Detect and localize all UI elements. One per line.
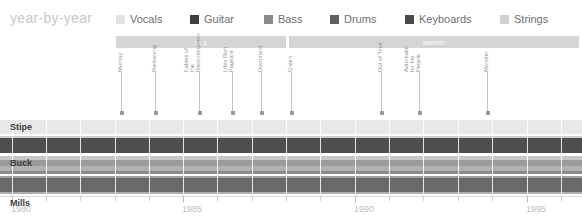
chart-header: year-by-year VocalsGuitarBassDrumsKeyboa… (0, 10, 582, 32)
legend-item-vocals[interactable]: Vocals (116, 11, 162, 27)
album-marker-line (261, 72, 262, 112)
axis-tick (355, 196, 356, 203)
album-marker-label: Document (257, 46, 263, 72)
album-marker-label: Out of Time (377, 42, 383, 72)
legend-swatch-icon (405, 15, 414, 24)
album-marker-dot-icon (198, 111, 202, 115)
gridline (252, 118, 253, 196)
legend-item-label: Vocals (130, 14, 162, 25)
legend-swatch-icon (264, 15, 273, 24)
gridline (80, 118, 81, 196)
axis-tick (217, 196, 218, 201)
album-marker-line (155, 72, 156, 112)
album-marker-line (121, 72, 122, 112)
album-marker-line (487, 72, 488, 112)
legend-item-label: Guitar (204, 14, 234, 25)
legend-item-drums[interactable]: Drums (330, 11, 376, 27)
legend-item-guitar[interactable]: Guitar (190, 11, 234, 27)
legend-item-bass[interactable]: Bass (264, 11, 302, 27)
album-marker-label: Automatic for the People (403, 44, 421, 72)
album-marker-line (199, 72, 200, 112)
album-marker-dot-icon (154, 111, 158, 115)
legend-item-label: Strings (514, 14, 548, 25)
axis-tick (46, 196, 47, 201)
member-name-label: Stipe (10, 122, 32, 132)
gridline (458, 118, 459, 196)
album-marker-dot-icon (231, 111, 235, 115)
album-marker-line (291, 72, 292, 112)
record-label-warner[interactable]: warner (289, 36, 579, 48)
axis-tick-label: 1995 (526, 204, 546, 214)
gridline (320, 118, 321, 196)
gridline (115, 118, 116, 196)
legend-item-label: Drums (344, 14, 376, 25)
gridline (355, 118, 356, 196)
album-marker-line (419, 72, 420, 112)
axis-tick-label: 1990 (354, 204, 374, 214)
album-marker-label: Murmur (117, 52, 123, 72)
page-title: year-by-year (10, 10, 92, 26)
album-marker-dot-icon (380, 111, 384, 115)
legend-item-keyboards[interactable]: Keyboards (405, 11, 472, 27)
album-marker-label: Reckoning (151, 45, 157, 72)
legend-swatch-icon (190, 15, 199, 24)
album-marker-label: Green (287, 56, 293, 72)
axis-tick (458, 196, 459, 201)
axis-tick (320, 196, 321, 201)
axis-tick (80, 196, 81, 201)
album-marker-dot-icon (486, 111, 490, 115)
legend-item-label: Keyboards (419, 14, 472, 25)
axis-tick-label: 1985 (182, 204, 202, 214)
axis-tick (423, 196, 424, 201)
year-by-year-chart: year-by-year VocalsGuitarBassDrumsKeyboa… (0, 0, 582, 221)
axis-tick (389, 196, 390, 201)
album-marker-line (232, 72, 233, 112)
x-axis: 1980198519901995 (0, 196, 582, 221)
album-marker-label: Lifes Rich Pageant (222, 44, 234, 72)
gridline (561, 118, 562, 196)
legend-swatch-icon (330, 15, 339, 24)
axis-tick (183, 196, 184, 203)
axis-tick (115, 196, 116, 201)
gridline (423, 118, 424, 196)
gridline (389, 118, 390, 196)
gridlines (0, 118, 582, 196)
legend-item-strings[interactable]: Strings (500, 11, 548, 27)
gridline (183, 118, 184, 196)
gridline (527, 118, 528, 196)
gridline (46, 118, 47, 196)
gridline (286, 118, 287, 196)
legend-swatch-icon (500, 15, 509, 24)
album-marker-line (381, 72, 382, 112)
legend-item-label: Bass (278, 14, 302, 25)
legend-swatch-icon (116, 15, 125, 24)
member-name-label: Mills (10, 198, 30, 208)
axis-tick (149, 196, 150, 201)
album-marker-label: Fables of the Reconstruction (183, 44, 201, 72)
axis-tick (492, 196, 493, 201)
member-name-label: Buck (10, 158, 32, 168)
gridline (149, 118, 150, 196)
plot-area: StipeBuckMillsBerry (0, 118, 582, 196)
album-markers: MurmurReckoningFables of the Reconstruct… (0, 52, 582, 116)
album-marker-dot-icon (120, 111, 124, 115)
album-marker-label: Monster (483, 51, 489, 72)
axis-tick (527, 196, 528, 203)
axis-tick (561, 196, 562, 201)
gridline (217, 118, 218, 196)
album-marker-dot-icon (290, 111, 294, 115)
axis-tick (252, 196, 253, 201)
axis-line (0, 196, 582, 197)
album-marker-dot-icon (418, 111, 422, 115)
gridline (492, 118, 493, 196)
album-marker-dot-icon (260, 111, 264, 115)
axis-tick (286, 196, 287, 201)
